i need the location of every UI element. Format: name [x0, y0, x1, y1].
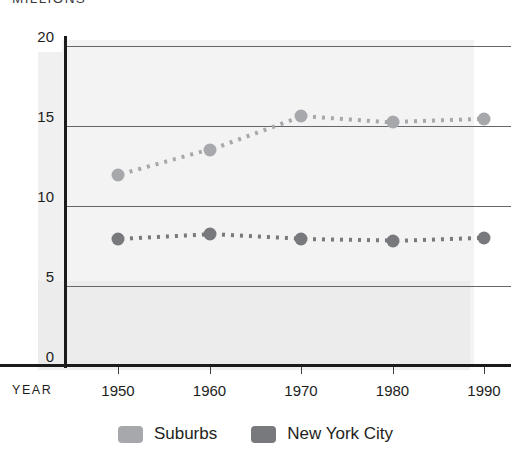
x-tick-1990 — [484, 367, 485, 374]
x-tick-label-1970: 1970 — [284, 382, 317, 399]
y-axis-line — [64, 36, 67, 368]
y-tick-label-10: 10 — [8, 188, 54, 205]
y-tick-label-5: 5 — [8, 268, 54, 285]
data-point[interactable] — [203, 228, 216, 241]
data-point[interactable] — [112, 169, 125, 182]
legend-swatch-icon — [118, 426, 143, 443]
x-tick-label-1960: 1960 — [193, 382, 226, 399]
data-point[interactable] — [478, 113, 491, 126]
gridline-20 — [64, 46, 511, 47]
x-tick-label-1950: 1950 — [101, 382, 134, 399]
y-tick-label-15: 15 — [8, 108, 54, 125]
data-point[interactable] — [112, 233, 125, 246]
gridline-15 — [64, 126, 511, 127]
units-caption: MILLIONS — [12, 0, 86, 6]
x-tick-1980 — [393, 367, 394, 374]
data-point[interactable] — [386, 116, 399, 129]
x-tick-1950 — [118, 367, 119, 374]
legend-item-suburbs[interactable]: Suburbs — [118, 424, 217, 444]
x-tick-1970 — [301, 367, 302, 374]
x-tick-label-1980: 1980 — [376, 382, 409, 399]
chart-root: MILLIONS 05101520 19501960197019801990 Y… — [0, 0, 511, 462]
data-point[interactable] — [478, 231, 491, 244]
x-tick-1960 — [210, 367, 211, 374]
legend-swatch-icon — [251, 426, 276, 443]
legend-item-new-york-city[interactable]: New York City — [251, 424, 393, 444]
x-axis-title: YEAR — [12, 383, 52, 397]
plot-background-wash-lower — [38, 281, 470, 366]
y-tick-label-20: 20 — [8, 28, 54, 45]
y-tick-label-0: 0 — [8, 348, 54, 365]
data-point[interactable] — [386, 234, 399, 247]
gridline-10 — [64, 206, 511, 207]
chart-legend: SuburbsNew York City — [0, 424, 511, 444]
x-tick-label-1990: 1990 — [467, 382, 500, 399]
data-point[interactable] — [203, 143, 216, 156]
x-axis-line — [0, 364, 511, 367]
gridline-5 — [64, 286, 511, 287]
legend-label: New York City — [287, 424, 393, 444]
data-point[interactable] — [295, 233, 308, 246]
data-point[interactable] — [295, 109, 308, 122]
legend-label: Suburbs — [154, 424, 217, 444]
